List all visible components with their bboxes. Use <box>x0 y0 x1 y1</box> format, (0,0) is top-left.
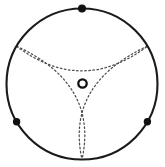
deltoid-arc-right <box>79 46 147 159</box>
bottom-left-marker <box>13 118 20 125</box>
geometric-figure-canvas <box>0 0 165 167</box>
deltoid-arc-left <box>17 46 85 159</box>
boundary-marker-group <box>13 5 151 126</box>
deltoid-arc-top <box>17 46 148 71</box>
top-marker <box>78 5 86 13</box>
center-point-hole <box>81 82 85 86</box>
bottom-right-marker <box>144 118 151 125</box>
figure-svg <box>0 0 165 167</box>
deltoid-curve-group <box>17 46 148 159</box>
